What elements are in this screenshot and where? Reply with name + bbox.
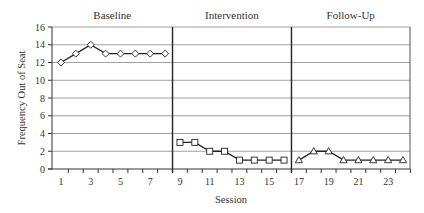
x-tick-label: 9 <box>177 176 182 187</box>
x-axis-title: Session <box>215 194 248 205</box>
y-tick-label: 4 <box>40 128 45 139</box>
diamond-marker <box>72 50 79 57</box>
phase-label-intervention: Intervention <box>205 9 259 21</box>
y-tick-label: 2 <box>40 146 45 157</box>
diamond-marker <box>102 50 109 57</box>
x-tick-label: 11 <box>205 176 215 187</box>
square-marker <box>192 139 198 145</box>
x-tick-label: 23 <box>383 176 393 187</box>
data-series <box>58 41 407 163</box>
phase-label-follow-up: Follow-Up <box>327 9 376 21</box>
square-marker <box>281 157 287 163</box>
x-tick-label: 3 <box>88 176 93 187</box>
single-case-design-chart: 02468101214161357911131517192123 Frequen… <box>0 0 424 213</box>
y-tick-label: 14 <box>35 39 45 50</box>
y-tick-label: 0 <box>40 164 45 175</box>
y-tick-label: 12 <box>35 57 45 68</box>
y-tick-label: 10 <box>35 75 45 86</box>
x-tick-label: 19 <box>324 176 334 187</box>
diamond-marker <box>87 41 94 48</box>
y-tick-label: 6 <box>40 110 45 121</box>
diamond-marker <box>162 50 169 57</box>
diamond-marker <box>117 50 124 57</box>
gridlines <box>52 27 410 151</box>
x-tick-label: 17 <box>294 176 304 187</box>
square-marker <box>222 148 228 154</box>
square-marker <box>236 157 242 163</box>
labels: Frequency Out of Seat Session BaselineIn… <box>16 9 375 205</box>
x-tick-label: 7 <box>148 176 153 187</box>
x-tick-label: 5 <box>118 176 123 187</box>
x-tick-label: 1 <box>59 176 64 187</box>
diamond-marker <box>132 50 139 57</box>
x-tick-label: 21 <box>353 176 363 187</box>
square-marker <box>177 139 183 145</box>
diamond-marker <box>58 59 65 66</box>
x-tick-label: 13 <box>234 176 244 187</box>
y-tick-label: 8 <box>40 93 45 104</box>
square-marker <box>251 157 257 163</box>
triangle-marker <box>295 157 302 163</box>
y-tick-label: 16 <box>35 22 45 33</box>
phase-label-baseline: Baseline <box>93 9 131 21</box>
y-axis-title: Frequency Out of Seat <box>16 51 27 146</box>
square-marker <box>266 157 272 163</box>
diamond-marker <box>147 50 154 57</box>
square-marker <box>207 148 213 154</box>
x-tick-label: 15 <box>264 176 274 187</box>
